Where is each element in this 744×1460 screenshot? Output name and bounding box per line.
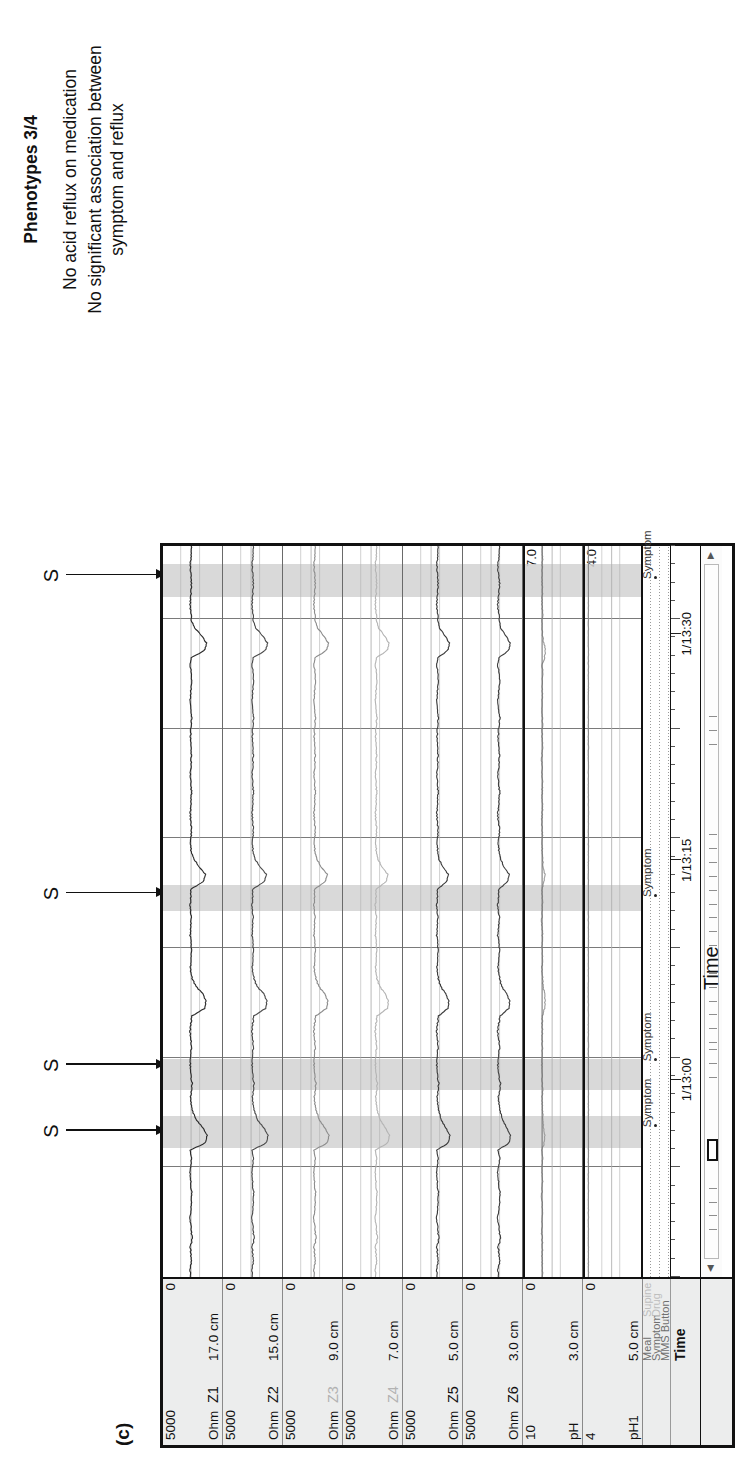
channel-depth-label: 3.0 cm: [566, 1320, 581, 1361]
trace-lane-z6: [463, 546, 523, 1277]
time-tick-label: 1/13:30: [679, 612, 694, 655]
symptom-arrow-letter: S: [40, 569, 63, 582]
trace-path-z3: [283, 546, 342, 1277]
trace-path-z1: [163, 546, 222, 1277]
scale-min-label: 0: [463, 1283, 478, 1291]
plot-area[interactable]: 7.04.0SymptomSymptomSymptomSymptom1/13:0…: [163, 546, 732, 1277]
channel-depth-label: 5.0 cm: [626, 1320, 641, 1361]
phenotype-caption: Phenotypes 3/4 No acid reflux on medicat…: [20, 17, 131, 342]
scrollbar-tick-mark: [709, 1014, 717, 1015]
scrollbar-tick-mark: [709, 1202, 717, 1203]
scroll-left-arrow-icon[interactable]: ◀: [703, 1261, 718, 1275]
event-row-label-mms-button: MMS Button: [661, 1279, 670, 1445]
time-minor-tick: [671, 819, 675, 820]
trace-lane-ph: 7.0: [523, 546, 583, 1277]
scale-max-label: 5000: [163, 1410, 178, 1440]
time-tick-label: 1/13:00: [679, 1058, 694, 1101]
time-minor-tick: [671, 673, 675, 674]
symptom-event-dot: [654, 1124, 657, 1127]
arrow-stem: [66, 892, 162, 894]
channel-depth-label: 3.0 cm: [506, 1320, 521, 1361]
channel-id-label: Z2: [265, 1386, 281, 1403]
time-minor-tick: [671, 1276, 680, 1277]
scrollbar-tick-mark: [709, 917, 717, 918]
scale-max-label: 5000: [343, 1410, 358, 1440]
time-minor-tick: [671, 1221, 675, 1222]
time-minor-tick: [671, 1020, 675, 1021]
trace-path-ph: [525, 546, 582, 1277]
channel-label-z1: 50000OhmZ117.0 cm: [163, 1279, 223, 1445]
channel-id-label: Z3: [325, 1386, 341, 1403]
scale-max-label: 5000: [283, 1410, 298, 1440]
arrow-stem: [66, 574, 162, 576]
scale-max-label: 10: [523, 1425, 538, 1440]
time-minor-tick: [671, 563, 675, 564]
scroll-right-arrow-icon[interactable]: ▶: [703, 548, 718, 562]
event-dotted-line: [650, 546, 651, 1277]
trace-path-z2: [223, 546, 282, 1277]
scale-min-label: 0: [223, 1283, 238, 1291]
scrollbar-tick-mark: [709, 834, 717, 835]
channel-unit-label: pH1: [626, 1415, 641, 1440]
time-minor-tick: [671, 984, 675, 985]
time-minor-tick: [671, 947, 680, 948]
scrollbar-tick-mark: [709, 1077, 717, 1078]
scrollbar-name-cell: [700, 1279, 722, 1445]
panel-label: (c): [112, 1423, 134, 1446]
time-minor-tick: [671, 746, 675, 747]
time-minor-tick: [671, 728, 680, 729]
scrollbar-tick-mark: [709, 876, 717, 877]
time-tick-label: 1/13:15: [679, 839, 694, 882]
scrollbar-tick-mark: [709, 931, 717, 932]
time-minor-tick: [671, 655, 675, 656]
time-minor-tick: [671, 691, 675, 692]
time-minor-tick: [671, 1112, 675, 1113]
scrollbar-tick-mark: [709, 862, 717, 863]
time-minor-tick: [671, 965, 675, 966]
scale-min-label: 0: [583, 1283, 598, 1291]
scrollbar-tick-mark: [709, 1001, 717, 1002]
scrollbar-tick-mark: [709, 1028, 717, 1029]
time-minor-tick: [671, 892, 675, 893]
scale-max-label: 5000: [403, 1410, 418, 1440]
channel-depth-label: 7.0 cm: [386, 1320, 401, 1361]
time-minor-tick: [671, 636, 675, 637]
scrollbar-track[interactable]: [704, 564, 719, 1259]
scrollbar-tick-mark: [709, 1229, 717, 1230]
time-minor-tick: [671, 1258, 675, 1259]
time-row-label: Time: [670, 1279, 700, 1445]
channel-unit-label: Ohm: [266, 1411, 281, 1440]
time-minor-tick: [671, 1166, 680, 1167]
event-dotted-line: [668, 546, 669, 1277]
channel-label-z4: 50000OhmZ47.0 cm: [343, 1279, 403, 1445]
trace-path-z5: [403, 546, 462, 1277]
time-minor-tick: [671, 764, 675, 765]
channel-label-ph1: 40pH15.0 cm: [583, 1279, 643, 1445]
time-axis-row: 1/13:001/13:151/13:30: [670, 546, 700, 1277]
channel-name-column: 50000OhmZ117.0 cm50000OhmZ215.0 cm50000O…: [163, 1277, 732, 1445]
symptom-event-dot: [654, 894, 657, 897]
trace-lane-z5: [403, 546, 463, 1277]
scrollbar-tick-mark: [709, 1063, 717, 1064]
event-lane-symptom: SymptomSymptomSymptomSymptom: [652, 546, 661, 1277]
time-minor-tick: [671, 1075, 675, 1076]
channel-unit-label: pH: [566, 1423, 581, 1440]
trace-path-ph1: [585, 546, 641, 1277]
scrollbar-tick-mark: [709, 848, 717, 849]
trace-lane-z3: [283, 546, 343, 1277]
channel-depth-label: 15.0 cm: [266, 1313, 281, 1361]
trace-lane-z2: [223, 546, 283, 1277]
horizontal-scrollbar[interactable]: ◀▶: [700, 546, 722, 1277]
rotated-figure-container: (c) Phenotypes 3/4 No acid reflux on med…: [0, 0, 744, 1460]
symptom-event-label: Symptom: [641, 1079, 653, 1128]
scrollbar-tick-mark: [709, 716, 717, 717]
scrollbar-thumb[interactable]: [707, 1139, 718, 1161]
channel-id-label: Z5: [445, 1386, 461, 1403]
phenotype-line-2: No significant association between sympt…: [84, 17, 130, 342]
channel-label-z3: 50000OhmZ39.0 cm: [283, 1279, 343, 1445]
scrollbar-tick-mark: [709, 730, 717, 731]
time-minor-tick: [671, 911, 675, 912]
impedance-ph-chart: 50000OhmZ117.0 cm50000OhmZ215.0 cm50000O…: [160, 543, 735, 1448]
channel-id-label: Z1: [205, 1386, 221, 1403]
channel-label-z5: 50000OhmZ55.0 cm: [403, 1279, 463, 1445]
